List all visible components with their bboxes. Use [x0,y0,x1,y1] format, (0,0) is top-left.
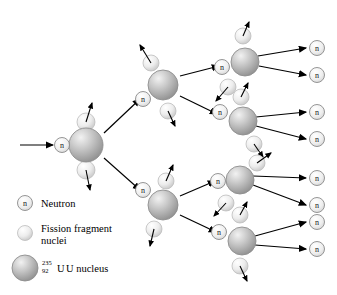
legend-fragment-label-line2: nuclei [41,235,67,246]
uranium-nucleus-u3a [231,48,259,76]
free-neutron-glyph-6: n [315,201,319,210]
emitted-neutron-arrow-3 [256,112,306,117]
legend-uranium-element: U [57,263,65,274]
branch-arrow-u2a-to-u3b [180,96,217,114]
legend-neutron-glyph: n [23,199,27,208]
free-neutrons-layer: nnnnnnnn [310,41,325,257]
branch-arrow-u2a-to-u3a [180,66,219,76]
legend-atomic-number: 92 [42,267,49,274]
absorbed-neutron-glyph-u3b: n [218,108,222,117]
branch-arrow-u2b-to-u3d [180,215,216,232]
fission-chain-diagram: nnnnnnn nnnnnnnn n Neutron Fission fragm… [0,0,337,295]
free-neutron-glyph-1: n [315,44,319,53]
emitted-neutron-arrow-8 [255,245,306,249]
emitted-neutron-arrow-1 [258,48,306,56]
emitted-neutron-arrow-7 [255,222,306,236]
uranium-nucleus-u1 [69,128,103,162]
absorbed-neutron-glyph-u3c: n [216,177,220,186]
legend-uranium-label: U nucleus [66,263,108,274]
free-neutron-glyph-3: n [315,108,319,117]
emitted-neutron-arrow-2 [259,66,306,75]
absorbed-neutron-glyph-u1: n [60,141,64,150]
emitted-neutron-arrow-6 [253,185,306,205]
uranium-nucleus-icon [12,255,38,281]
free-neutron-glyph-7: n [315,218,319,227]
uranium-nucleus-u3d [228,227,256,255]
free-neutron-glyph-4: n [315,135,319,144]
legend-neutron-label: Neutron [41,198,76,209]
legend-mass-number: 235 [42,259,52,266]
uranium-nucleus-u3b [229,107,257,135]
uranium-nucleus-u2b [148,190,178,220]
absorbed-neutron-glyph-u2b: n [141,186,145,195]
absorbed-neutron-glyph-u3d: n [217,228,221,237]
absorbed-neutron-glyph-u3a: n [220,63,224,72]
uranium-nucleus-u3c [226,166,254,194]
emitted-neutron-arrow-5 [253,176,306,178]
branch-arrow-u2b-to-u3c [180,181,215,196]
free-neutron-glyph-8: n [315,245,319,254]
branch-arrow-g1-to-u2b [104,158,140,190]
uranium-nucleus-u2a [148,70,178,100]
diagram-canvas: nnnnnnn nnnnnnnn n Neutron Fission fragm… [0,0,337,295]
branch-arrow-g1-to-u2a [104,99,140,133]
legend: n Neutron Fission fragment nuclei 235 92… [12,196,112,282]
free-neutron-glyph-5: n [315,174,319,183]
legend-fragment-label: Fission fragment [41,223,112,234]
emitted-neutron-arrow-4 [256,126,306,139]
fission-fragment-icon [18,226,33,241]
absorbed-neutron-glyph-u2a: n [141,95,145,104]
free-neutron-glyph-2: n [315,71,319,80]
